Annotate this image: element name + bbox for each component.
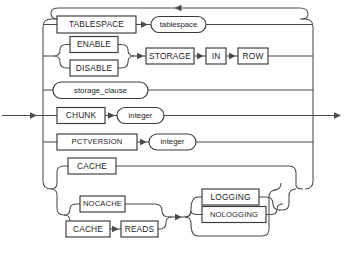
right-spine-top (300, 19, 313, 116)
node-pctversion-keyword: PCTVERSION (57, 134, 137, 150)
node-row-keyword: ROW (238, 48, 268, 64)
node-chunk-integer-nonterminal: integer (117, 108, 164, 124)
row2-merge-down (118, 56, 134, 68)
row7-fork-up (64, 204, 80, 215)
node-label: storage_clause (74, 86, 127, 95)
node-tablespace-keyword: TABLESPACE (57, 16, 136, 33)
exit-arrow-icon (334, 112, 341, 118)
node-reads-keyword: READS (121, 221, 158, 237)
row7-nocache-merge (125, 204, 169, 217)
node-label: tablespace (160, 20, 198, 29)
node-label: STORAGE (149, 51, 191, 61)
row2-arrow2-icon (197, 53, 204, 59)
node-label: ROW (243, 51, 264, 61)
node-label: LOGGING (210, 192, 250, 202)
logging-fork-mid (185, 211, 202, 217)
row1-arrow-icon (141, 21, 148, 27)
node-label: CACHE (77, 161, 107, 171)
entry-arrow-icon (30, 112, 37, 118)
node-label: PCTVERSION (72, 137, 123, 146)
subgroup-fork-up (51, 166, 68, 189)
node-label: NOCACHE (83, 199, 122, 208)
row2-fork-up (54, 45, 70, 57)
node-label: NOLOGGING (210, 210, 258, 219)
node-enable-keyword: ENABLE (70, 37, 118, 53)
node-label: READS (125, 224, 155, 234)
row4-arrow-icon (108, 112, 115, 118)
node-label: integer (129, 111, 153, 120)
node-tablespace-nonterminal: tablespace (151, 17, 206, 33)
node-nologging-keyword: NOLOGGING (202, 207, 266, 223)
row2-arrow1-icon (137, 53, 144, 59)
node-cache2-keyword: CACHE (66, 221, 110, 237)
node-label: DISABLE (76, 63, 113, 73)
logging-collector-up (279, 189, 296, 210)
left-spine-top (43, 19, 57, 116)
row2-merge-up (118, 45, 134, 57)
syntax-railroad-diagram: TABLESPACE tablespace ENABLE DISABLE STO… (0, 0, 345, 262)
node-label: TABLESPACE (69, 19, 124, 29)
loop-back-arrow-icon (175, 5, 182, 11)
left-spine-bottom (43, 116, 51, 190)
row7-reads-merge (158, 217, 172, 229)
node-label: CACHE (73, 224, 103, 234)
subgroup-fork-down (51, 189, 64, 215)
row7-arrow-icon (112, 226, 119, 232)
node-logging-keyword: LOGGING (202, 189, 259, 205)
node-storage-clause-nonterminal: storage_clause (53, 82, 148, 99)
node-chunk-keyword: CHUNK (57, 108, 105, 124)
row7-arrow2-icon (175, 214, 182, 220)
node-pctversion-integer-nonterminal: integer (149, 134, 196, 150)
row5-arrow-icon (140, 139, 147, 145)
node-storage-keyword: STORAGE (146, 48, 194, 64)
node-label: IN (212, 51, 221, 61)
row6-cache-right-line (116, 166, 303, 189)
node-disable-keyword: DISABLE (70, 60, 118, 76)
rail-network (2, 5, 341, 236)
row2-arrow3-icon (229, 53, 236, 59)
node-in-keyword: IN (206, 48, 226, 64)
node-label: integer (161, 137, 185, 146)
node-nocache-keyword: NOCACHE (80, 196, 125, 212)
node-label: ENABLE (77, 39, 111, 49)
node-label: CHUNK (66, 110, 97, 120)
node-cache-keyword: CACHE (68, 158, 116, 174)
row2-fork-down (54, 56, 70, 68)
right-spine-bottom (305, 116, 313, 190)
logging-bypass-join (274, 183, 281, 190)
